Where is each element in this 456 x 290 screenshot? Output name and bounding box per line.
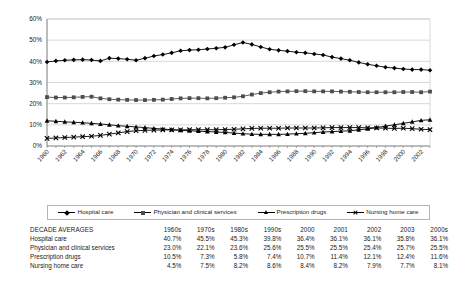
table-cell: 11.6% xyxy=(415,253,448,262)
diamond-marker-icon xyxy=(58,209,75,216)
legend-entry: Hospital care xyxy=(58,209,113,216)
column-header: 2000 xyxy=(281,226,314,235)
x-axis-tick-label: 1984 xyxy=(249,147,264,162)
row-label: Prescription drugs xyxy=(30,253,148,262)
table-header-row: DECADE AVERAGES1960s1970s1980s1990s20002… xyxy=(30,226,448,235)
table-cell: 25.5% xyxy=(315,244,348,253)
marker-glyph xyxy=(353,210,358,215)
x-axis-tick-label: 1982 xyxy=(232,147,247,162)
table-cell: 36.1% xyxy=(315,235,348,244)
table-cell: 23.0% xyxy=(148,244,181,253)
x-axis-tick-label: 2000 xyxy=(392,147,407,162)
x-axis-tick-label: 1968 xyxy=(107,147,122,162)
table-row: Hospital care40.7%45.5%45.3%39.8%36.4%36… xyxy=(30,235,448,244)
marker-glyph xyxy=(64,210,70,216)
table-header: DECADE AVERAGES1960s1970s1980s1990s20002… xyxy=(30,226,448,235)
table-cell: 8.4% xyxy=(281,262,314,271)
table-row: Nursing home care4.5%7.5%8.2%8.6%8.4%8.2… xyxy=(30,262,448,271)
column-header: 2002 xyxy=(348,226,381,235)
table-cell: 12.1% xyxy=(348,253,381,262)
table-cell: 40.7% xyxy=(148,235,181,244)
chart-figure: 0%10%20%30%40%50%60%19601962196419661968… xyxy=(0,0,456,200)
x-axis-tick-label: 1998 xyxy=(374,147,389,162)
column-header: 1970s xyxy=(181,226,214,235)
table-cell: 36.1% xyxy=(415,235,448,244)
table-cell: 39.8% xyxy=(248,235,281,244)
table-cell: 7.5% xyxy=(181,262,214,271)
column-header: 2000s xyxy=(415,226,448,235)
table-cell: 25.5% xyxy=(281,244,314,253)
table-cell: 4.5% xyxy=(148,262,181,271)
table-cell: 8.6% xyxy=(248,262,281,271)
column-header: DECADE AVERAGES xyxy=(30,226,148,235)
line-chart-plot: 0%10%20%30%40%50%60%19601962196419661968… xyxy=(0,0,456,200)
cross-marker-icon xyxy=(347,209,364,216)
table-cell: 45.5% xyxy=(181,235,214,244)
table-cell: 8.2% xyxy=(215,262,248,271)
column-header: 1980s xyxy=(215,226,248,235)
table-cell: 25.4% xyxy=(348,244,381,253)
x-axis-tick-label: 1970 xyxy=(125,147,140,162)
y-axis-tick-label: 0% xyxy=(33,142,43,149)
column-header: 2003 xyxy=(381,226,414,235)
column-header: 1990s xyxy=(248,226,281,235)
legend-entry: Physician and clinical services xyxy=(134,209,236,216)
table-cell: 36.4% xyxy=(281,235,314,244)
marker-glyph xyxy=(264,210,268,214)
table-row: Prescription drugs10.5%7.3%5.8%7.4%10.7%… xyxy=(30,253,448,262)
table-cell: 7.7% xyxy=(381,262,414,271)
table-cell: 22.1% xyxy=(181,244,214,253)
legend-label: Physician and clinical services xyxy=(153,209,236,215)
y-axis-tick-label: 50% xyxy=(29,36,42,43)
table-cell: 10.7% xyxy=(281,253,314,262)
x-axis-tick-label: 1996 xyxy=(356,147,371,162)
table-row: Physician and clinical services23.0%22.1… xyxy=(30,244,448,253)
row-label: Hospital care xyxy=(30,235,148,244)
x-axis-tick-label: 1986 xyxy=(267,147,282,162)
column-header: 2001 xyxy=(315,226,348,235)
square-marker-icon xyxy=(134,209,151,216)
table-cell: 12.4% xyxy=(381,253,414,262)
legend-label: Hospital care xyxy=(77,209,113,215)
table-cell: 23.6% xyxy=(215,244,248,253)
marker-glyph xyxy=(141,211,145,215)
legend-label: Nursing home care xyxy=(366,209,418,215)
table-cell: 8.1% xyxy=(415,262,448,271)
y-axis-tick-label: 30% xyxy=(29,79,42,86)
table-body: Hospital care40.7%45.5%45.3%39.8%36.4%36… xyxy=(30,235,448,271)
table-cell: 7.3% xyxy=(181,253,214,262)
table-cell: 35.8% xyxy=(381,235,414,244)
x-axis-tick-label: 1960 xyxy=(36,147,51,162)
x-axis-tick-label: 1990 xyxy=(303,147,318,162)
table-cell: 25.7% xyxy=(381,244,414,253)
row-label: Nursing home care xyxy=(30,262,148,271)
y-axis-tick-label: 40% xyxy=(29,58,42,65)
table-cell: 7.9% xyxy=(348,262,381,271)
table-cell: 45.3% xyxy=(215,235,248,244)
triangle-marker-icon xyxy=(258,209,275,216)
table-cell: 11.4% xyxy=(315,253,348,262)
x-axis-tick-label: 1962 xyxy=(53,147,68,162)
table-cell: 7.4% xyxy=(248,253,281,262)
y-axis-tick-label: 10% xyxy=(29,121,42,128)
x-axis-tick-label: 2002 xyxy=(410,147,425,162)
x-axis-tick-label: 1978 xyxy=(196,147,211,162)
y-axis-tick-label: 60% xyxy=(29,15,42,22)
legend-entry: Prescription drugs xyxy=(258,209,327,216)
legend-entry: Nursing home care xyxy=(347,209,418,216)
decade-averages-table: DECADE AVERAGES1960s1970s1980s1990s20002… xyxy=(30,226,448,271)
x-axis-tick-label: 1972 xyxy=(143,147,158,162)
column-header: 1960s xyxy=(148,226,181,235)
table-cell: 25.6% xyxy=(248,244,281,253)
table-cell: 36.1% xyxy=(348,235,381,244)
x-axis-tick-label: 1988 xyxy=(285,147,300,162)
table-cell: 5.8% xyxy=(215,253,248,262)
legend-label: Prescription drugs xyxy=(277,209,327,215)
x-axis-tick-label: 1966 xyxy=(89,147,104,162)
table-cell: 8.2% xyxy=(315,262,348,271)
x-axis-tick-label: 1974 xyxy=(160,147,175,162)
table-cell: 10.5% xyxy=(148,253,181,262)
table-cell: 25.5% xyxy=(415,244,448,253)
row-label: Physician and clinical services xyxy=(30,244,148,253)
x-axis-tick-label: 1976 xyxy=(178,147,193,162)
